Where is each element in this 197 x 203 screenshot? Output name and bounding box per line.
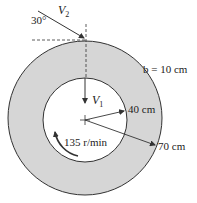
angle-label: 30°: [31, 14, 46, 26]
width-label: b = 10 cm: [143, 63, 188, 75]
inner-radius-label: 40 cm: [128, 103, 156, 115]
rotation-speed-label: 135 r/min: [64, 136, 108, 148]
outer-radius-label: 70 cm: [158, 140, 186, 152]
impeller-diagram: 30° V2 V1 b = 10 cm 40 cm 70 cm 135 r/mi…: [0, 0, 197, 203]
v2-label: V2: [58, 3, 69, 19]
